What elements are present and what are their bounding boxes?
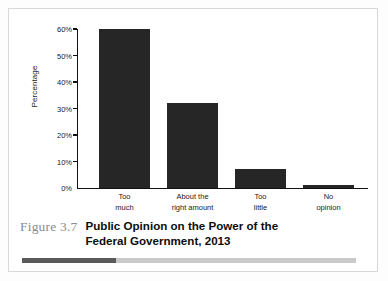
bar <box>235 169 286 188</box>
figure-title: Public Opinion on the Power of the Feder… <box>86 219 279 248</box>
figure-title-line-2: Federal Government, 2013 <box>86 234 279 249</box>
y-tick-mark <box>73 108 77 109</box>
bar <box>167 103 218 188</box>
x-category-label-line: No <box>284 192 374 203</box>
figure-title-line-1: Public Opinion on the Power of the <box>86 219 279 234</box>
bar-chart: Percentage 0%10%20%30%40%50%60% ToomuchA… <box>0 0 388 215</box>
figure-caption: Figure 3.7 Public Opinion on the Power o… <box>20 219 368 248</box>
x-category-label-line: opinion <box>284 203 374 214</box>
rule-dark-segment <box>22 258 116 263</box>
bar <box>303 185 354 188</box>
y-tick-mark <box>73 81 77 82</box>
x-category-label: Noopinion <box>284 192 374 213</box>
y-tick-mark <box>73 134 77 135</box>
y-tick-mark <box>73 161 77 162</box>
decorative-rule <box>22 258 356 263</box>
rule-light-segment <box>116 258 356 263</box>
bars-layer <box>0 0 388 215</box>
bar <box>99 29 150 188</box>
x-axis-category-labels: ToomuchAbout theright amountToolittleNoo… <box>0 192 388 220</box>
y-tick-mark <box>73 55 77 56</box>
y-tick-mark <box>73 28 77 29</box>
figure-container: Percentage 0%10%20%30%40%50%60% ToomuchA… <box>0 0 388 281</box>
figure-number-label: Figure 3.7 <box>20 219 78 235</box>
